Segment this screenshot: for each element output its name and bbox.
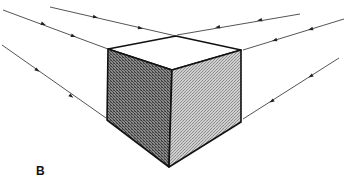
guide-line bbox=[243, 58, 339, 119]
cube bbox=[107, 36, 241, 167]
guide-line bbox=[50, 7, 176, 36]
arrowhead-icon bbox=[272, 38, 278, 43]
figure-label: B bbox=[36, 164, 45, 178]
guide-line bbox=[243, 19, 344, 50]
guide-line bbox=[3, 10, 108, 49]
guide-line bbox=[177, 14, 300, 35]
perspective-cube-diagram bbox=[0, 0, 353, 187]
guide-line bbox=[2, 45, 106, 118]
cube-right-face bbox=[169, 50, 241, 167]
arrowhead-icon bbox=[70, 34, 76, 39]
arrowhead-icon bbox=[308, 27, 314, 32]
arrowhead-icon bbox=[93, 15, 99, 20]
cube-left-face bbox=[107, 49, 172, 167]
